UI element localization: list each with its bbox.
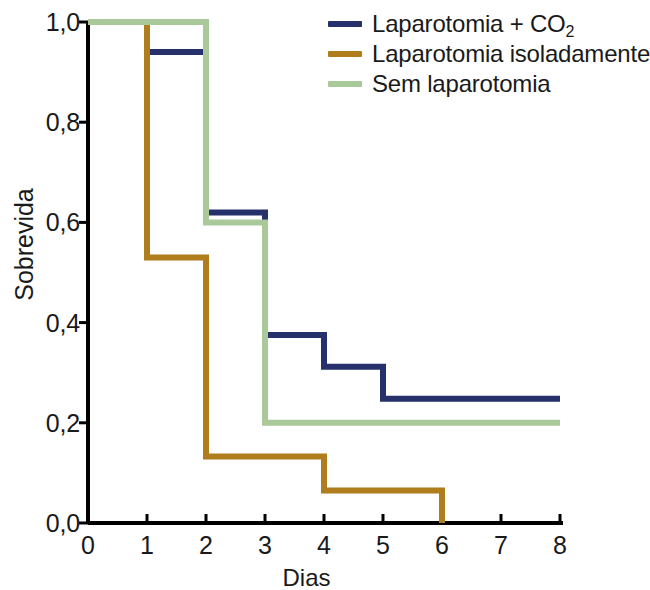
legend-item-label: Laparotomia + CO2 xyxy=(372,12,574,36)
x-tick-label: 7 xyxy=(481,533,521,558)
y-axis-title: Sobrevida xyxy=(12,175,37,315)
x-tick-label: 8 xyxy=(540,533,580,558)
x-tick-label: 2 xyxy=(186,533,226,558)
legend-item: Laparotomia + CO2 xyxy=(328,9,614,39)
legend-color-swatch xyxy=(328,21,362,27)
legend-color-swatch xyxy=(328,51,362,57)
x-tick-label: 3 xyxy=(245,533,285,558)
legend-item-label: Laparotomia isoladamente xyxy=(372,42,650,66)
legend-item: Sem laparotomia xyxy=(328,69,614,99)
legend: Laparotomia + CO2Laparotomia isoladament… xyxy=(328,9,614,99)
legend-color-swatch xyxy=(328,81,362,87)
x-tick-label: 6 xyxy=(422,533,462,558)
x-tick-label: 5 xyxy=(363,533,403,558)
x-tick-label: 1 xyxy=(127,533,167,558)
x-tick-label: 4 xyxy=(304,533,344,558)
legend-item: Laparotomia isoladamente xyxy=(328,39,614,69)
x-tick-label: 0 xyxy=(68,533,108,558)
x-axis-title: Dias xyxy=(0,566,613,590)
legend-item-label: Sem laparotomia xyxy=(372,72,550,96)
